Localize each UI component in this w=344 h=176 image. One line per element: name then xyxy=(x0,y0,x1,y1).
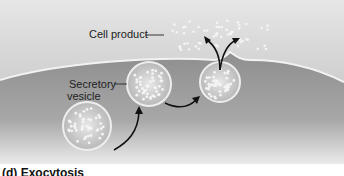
particle xyxy=(266,24,269,27)
particle xyxy=(99,137,102,140)
particle xyxy=(232,79,235,82)
particle xyxy=(142,98,145,101)
vesicle-label: vesicle xyxy=(67,90,101,102)
particle xyxy=(159,76,162,79)
particle xyxy=(220,36,223,39)
particle xyxy=(205,76,208,79)
particle xyxy=(70,129,73,132)
exocytosis-diagram xyxy=(0,0,344,176)
particle xyxy=(139,83,142,86)
particle xyxy=(225,29,228,32)
particle xyxy=(87,135,90,138)
particle xyxy=(146,93,149,96)
particle xyxy=(171,29,174,32)
particle xyxy=(213,95,216,98)
particle xyxy=(67,128,70,131)
particle xyxy=(221,26,224,29)
particle xyxy=(95,117,98,120)
particle xyxy=(214,79,217,82)
particle xyxy=(153,95,156,98)
particle xyxy=(101,133,104,136)
particle xyxy=(224,85,227,88)
particle xyxy=(186,42,189,45)
particle xyxy=(141,87,144,90)
particle xyxy=(146,71,149,74)
particle xyxy=(99,122,102,125)
particle xyxy=(183,42,186,45)
particle xyxy=(184,25,187,28)
particle xyxy=(207,88,210,91)
particle xyxy=(139,81,142,84)
particle xyxy=(70,125,73,128)
particle xyxy=(76,140,79,143)
particle xyxy=(226,72,229,75)
particle xyxy=(79,115,82,118)
particle xyxy=(74,112,77,115)
particle xyxy=(160,79,163,82)
particle xyxy=(188,48,191,51)
particle xyxy=(183,32,186,35)
particle xyxy=(145,89,148,92)
particle xyxy=(96,128,99,131)
particle xyxy=(192,31,195,34)
particle xyxy=(138,90,141,93)
particle xyxy=(216,45,219,48)
particle xyxy=(84,136,87,139)
particle xyxy=(227,33,230,36)
particle xyxy=(263,45,266,48)
particle xyxy=(145,95,148,98)
secretory-vesicle-near xyxy=(127,62,171,106)
particle xyxy=(135,80,138,83)
particle xyxy=(212,76,215,79)
particle xyxy=(214,83,217,86)
particle xyxy=(151,69,154,72)
particle xyxy=(265,48,268,51)
particle xyxy=(97,114,100,117)
particle xyxy=(151,76,154,79)
particle xyxy=(213,71,216,74)
figure-caption: (d) Exocytosis xyxy=(2,166,84,176)
particle xyxy=(135,94,138,97)
particle xyxy=(208,76,211,79)
particle xyxy=(100,127,103,130)
particle xyxy=(68,119,71,122)
particle xyxy=(260,27,263,30)
particle xyxy=(195,45,198,48)
particle xyxy=(208,85,211,88)
particle xyxy=(206,29,209,32)
particle xyxy=(161,88,164,91)
particle xyxy=(151,72,154,75)
particle xyxy=(245,23,248,26)
particle xyxy=(133,74,136,77)
particle xyxy=(135,86,138,89)
particle xyxy=(226,88,229,91)
particle xyxy=(90,134,93,137)
particle xyxy=(210,84,213,87)
particle xyxy=(158,85,161,88)
particle xyxy=(216,21,219,24)
particle xyxy=(86,125,89,128)
particle xyxy=(210,95,213,98)
particle xyxy=(241,40,244,43)
particle xyxy=(75,129,78,132)
particle xyxy=(90,127,93,130)
particle xyxy=(152,79,155,82)
particle xyxy=(188,20,191,23)
particle xyxy=(219,83,222,86)
particle xyxy=(139,76,142,79)
particle xyxy=(215,26,218,29)
cell-product-label: Cell product xyxy=(89,28,148,40)
particle xyxy=(219,90,222,93)
particle xyxy=(225,77,228,80)
particle xyxy=(155,90,158,93)
particle xyxy=(180,48,183,51)
particle xyxy=(197,26,200,29)
particle xyxy=(90,107,93,110)
particle xyxy=(226,19,229,22)
particle xyxy=(208,93,211,96)
particle xyxy=(197,47,200,50)
particle xyxy=(175,31,178,34)
particle xyxy=(198,42,201,45)
particle xyxy=(88,142,91,145)
particle xyxy=(143,91,146,94)
